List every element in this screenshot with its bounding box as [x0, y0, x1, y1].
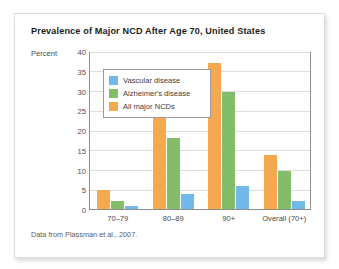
y-tick-label: 5 [82, 186, 86, 195]
bar [111, 201, 124, 209]
legend-label: All major NCDs [123, 102, 175, 111]
legend-swatch-icon [109, 89, 118, 98]
bar [292, 201, 305, 209]
bar [167, 138, 180, 209]
y-tick-label: 15 [78, 146, 86, 155]
y-tick-label: 35 [78, 67, 86, 76]
bar-group: Overall (70+) [257, 52, 313, 209]
bar [181, 194, 194, 209]
page-title: Prevalence of Major NCD After Age 70, Un… [31, 26, 316, 37]
figure-card: Prevalence of Major NCD After Age 70, Un… [14, 13, 325, 258]
bar [125, 206, 138, 209]
y-tick-label: 30 [78, 87, 86, 96]
x-tick-label: 80–89 [163, 214, 184, 223]
bar [236, 186, 249, 209]
legend-swatch-icon [109, 76, 118, 85]
legend-swatch-icon [109, 102, 118, 111]
y-tick-label: 40 [78, 48, 86, 57]
y-tick-label: 20 [78, 127, 86, 136]
bar [278, 171, 291, 209]
source-note: Data from Plassman et al., 2007. [31, 230, 137, 239]
bar [97, 190, 110, 209]
y-tick-label: 0 [82, 206, 86, 215]
chart-legend: Vascular diseaseAlzheimer's diseaseAll m… [103, 69, 211, 118]
legend-item: Vascular disease [109, 74, 205, 87]
legend-label: Vascular disease [123, 76, 180, 85]
y-tick-label: 10 [78, 166, 86, 175]
x-tick-label: 90+ [222, 214, 235, 223]
bar [222, 92, 235, 209]
x-tick-label: Overall (70+) [262, 214, 306, 223]
y-axis-label: Percent [31, 49, 57, 58]
legend-label: Alzheimer's disease [123, 89, 190, 98]
bar [153, 114, 166, 209]
x-tick-label: 70–79 [107, 214, 128, 223]
y-tick-label: 25 [78, 107, 86, 116]
legend-item: Alzheimer's disease [109, 87, 205, 100]
bar [264, 155, 277, 209]
legend-item: All major NCDs [109, 100, 205, 113]
